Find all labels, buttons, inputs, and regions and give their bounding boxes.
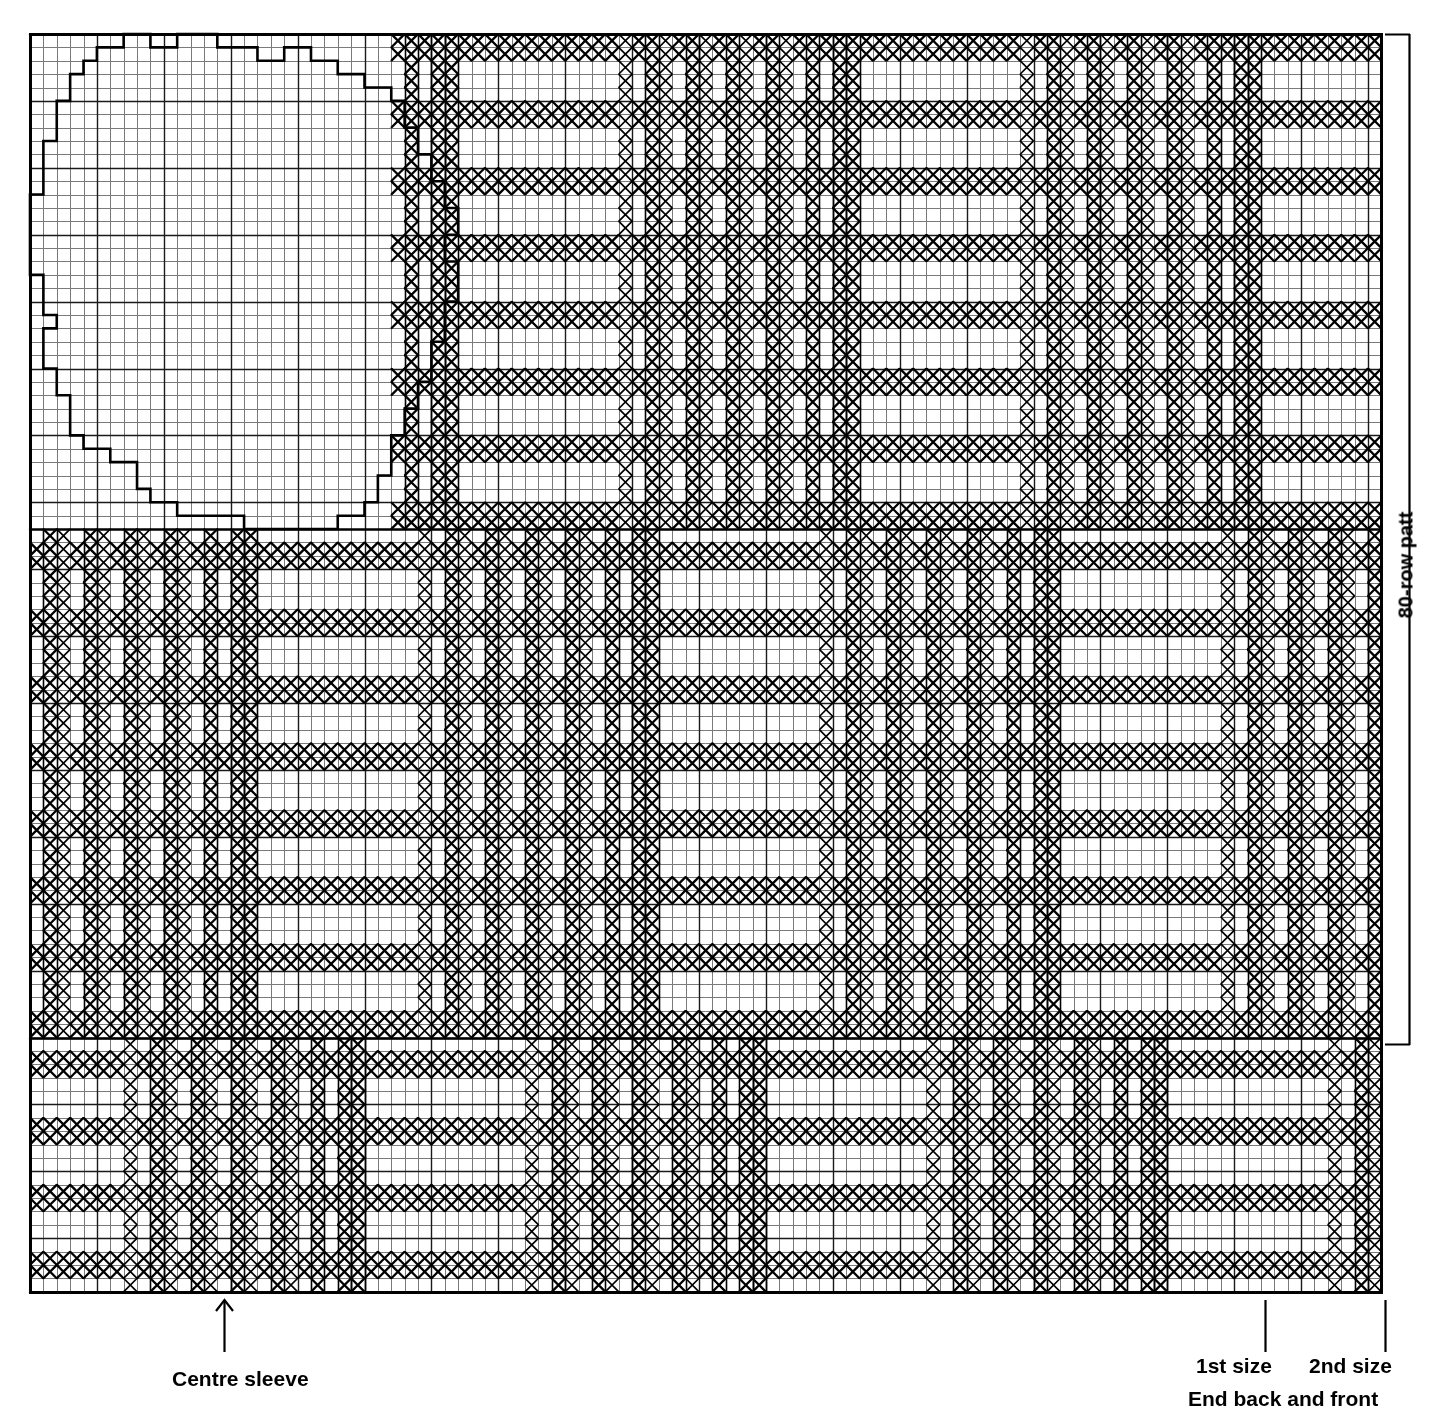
second-size-label: 2nd size <box>1309 1354 1392 1378</box>
centre-sleeve-label: Centre sleeve <box>172 1367 309 1391</box>
row-repeat-bracket-label: 80-row patt <box>1395 512 1418 619</box>
first-size-label: 1st size <box>1196 1354 1272 1378</box>
end-back-and-front-label: End back and front <box>1188 1387 1378 1410</box>
